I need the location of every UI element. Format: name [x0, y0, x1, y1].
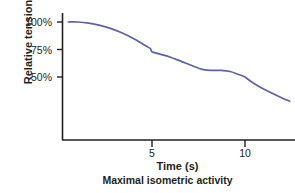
- x-axis-subtitle: Maximal isometric activity: [40, 174, 295, 186]
- x-tick-label-10: 10: [235, 148, 255, 159]
- x-axis-title: Time (s): [60, 160, 295, 172]
- tension-curve: [68, 22, 289, 101]
- x-tick-label-5: 5: [142, 148, 162, 159]
- chart-figure: 100% 75% 50% 5 10 Relative tension Time …: [0, 0, 295, 193]
- y-axis-title: Relative tension: [22, 0, 34, 92]
